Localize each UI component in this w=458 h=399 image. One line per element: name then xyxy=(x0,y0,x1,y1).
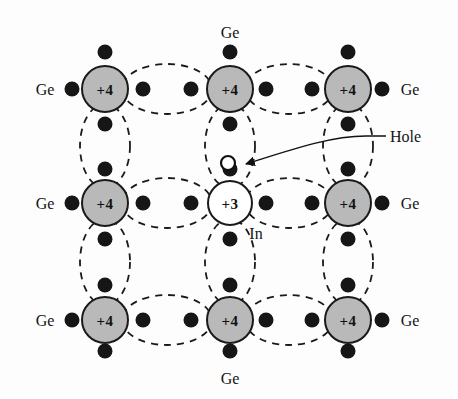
element-symbol-label: Ge xyxy=(401,195,420,212)
free-electron xyxy=(65,82,80,97)
bond-electron xyxy=(305,82,320,97)
covalent-bond-ellipse xyxy=(245,178,333,228)
free-electron xyxy=(375,313,390,328)
element-symbol-label: Ge xyxy=(36,195,55,212)
bond-electron xyxy=(184,82,199,97)
callout-label-hole: Hole xyxy=(390,128,421,145)
bond-electron xyxy=(98,117,113,132)
element-symbol-label: Ge xyxy=(36,312,55,329)
atom-charge-label: +4 xyxy=(96,313,113,329)
bond-electron xyxy=(305,313,320,328)
indium-dopant-atom: +3 xyxy=(208,181,252,225)
atom-core-group: +4+4+4+4+3+4+4+4+4 xyxy=(82,66,371,343)
hole-marker-group xyxy=(221,156,235,170)
atom-charge-label: +4 xyxy=(339,82,356,98)
bond-electron xyxy=(184,196,199,211)
bond-electron xyxy=(341,117,356,132)
bond-electron xyxy=(259,82,274,97)
bond-electron xyxy=(98,232,113,247)
germanium-atom: +4 xyxy=(325,66,371,112)
germanium-atom: +4 xyxy=(207,66,253,112)
element-symbol-label: In xyxy=(249,225,262,242)
bond-electron xyxy=(259,313,274,328)
atom-charge-label: +4 xyxy=(96,196,113,212)
bond-electron xyxy=(223,278,238,293)
free-electron xyxy=(65,196,80,211)
free-electron xyxy=(223,45,238,60)
bond-electron xyxy=(98,162,113,177)
atom-charge-label: +4 xyxy=(339,196,356,212)
atom-charge-label: +3 xyxy=(221,196,238,212)
bond-electron xyxy=(341,162,356,177)
free-electron xyxy=(98,45,113,60)
bond-electron xyxy=(136,82,151,97)
free-electron xyxy=(223,344,238,359)
lattice-diagram: +4+4+4+4+3+4+4+4+4 Hole GeGeGeGeGeGeGeGe… xyxy=(0,0,458,399)
element-symbol-label: Ge xyxy=(221,370,240,387)
covalent-bond-ellipse xyxy=(245,64,333,114)
free-electron xyxy=(341,344,356,359)
atom-charge-label: +4 xyxy=(96,82,113,98)
element-symbol-label: Ge xyxy=(401,81,420,98)
callout-leader-line xyxy=(246,136,386,164)
callout-group: Hole xyxy=(246,128,421,165)
free-electron xyxy=(375,196,390,211)
bond-electron xyxy=(136,313,151,328)
germanium-atom: +4 xyxy=(325,297,371,343)
covalent-bond-ellipse xyxy=(245,295,333,345)
bond-electron xyxy=(223,117,238,132)
germanium-atom: +4 xyxy=(325,180,371,226)
bond-electron xyxy=(136,196,151,211)
germanium-atom: +4 xyxy=(82,180,128,226)
atom-charge-label: +4 xyxy=(221,82,238,98)
atom-charge-label: +4 xyxy=(221,313,238,329)
element-symbol-label: Ge xyxy=(36,81,55,98)
free-electron xyxy=(98,344,113,359)
element-symbol-label: Ge xyxy=(221,24,240,41)
bond-electron xyxy=(98,278,113,293)
lattice-canvas: +4+4+4+4+3+4+4+4+4 Hole GeGeGeGeGeGeGeGe… xyxy=(0,0,458,399)
germanium-atom: +4 xyxy=(82,297,128,343)
hole-open-circle xyxy=(221,156,235,170)
free-electron xyxy=(341,45,356,60)
atom-charge-label: +4 xyxy=(339,313,356,329)
germanium-atom: +4 xyxy=(82,66,128,112)
bond-electron xyxy=(341,232,356,247)
germanium-atom: +4 xyxy=(207,297,253,343)
bond-electron xyxy=(223,232,238,247)
free-electron xyxy=(65,313,80,328)
bond-electron xyxy=(305,196,320,211)
bond-electron xyxy=(341,278,356,293)
bond-electron xyxy=(184,313,199,328)
free-electron xyxy=(375,82,390,97)
bond-electron xyxy=(259,196,274,211)
element-symbol-label: Ge xyxy=(401,312,420,329)
